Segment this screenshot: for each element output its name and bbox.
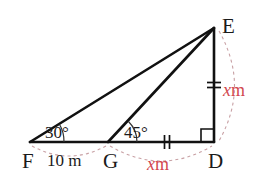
angle-label-45: 45° xyxy=(124,123,148,142)
vertex-label-D: D xyxy=(208,149,223,173)
length-label-fg: 10 m xyxy=(47,151,81,170)
angle-label-30: 30° xyxy=(45,123,69,142)
vertex-label-F: F xyxy=(22,149,34,173)
vertex-label-E: E xyxy=(222,14,235,38)
length-label-ed-var: x xyxy=(222,80,231,100)
diagram-canvas: E F G D 30° 45° 10 m xm xm xyxy=(0,0,271,187)
length-label-ed-unit: m xyxy=(231,80,245,100)
length-label-gd: xm xyxy=(146,154,169,174)
length-label-ed: xm xyxy=(222,80,245,100)
length-label-gd-unit: m xyxy=(155,154,169,174)
geometry-diagram: E F G D 30° 45° 10 m xm xm xyxy=(0,0,271,187)
vertex-label-G: G xyxy=(103,149,118,173)
right-angle-mark-D xyxy=(201,129,214,142)
length-label-gd-var: x xyxy=(146,154,155,174)
